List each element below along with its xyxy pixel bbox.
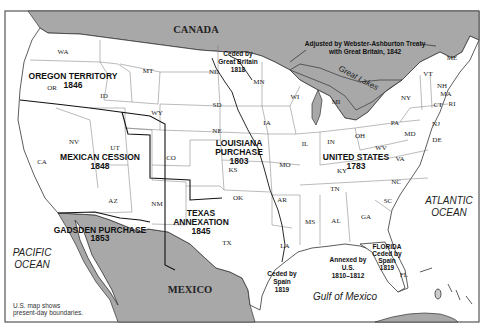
- note-ceded-spain-3: 1819: [275, 286, 290, 293]
- svg-text:MS: MS: [305, 218, 315, 226]
- label-pacific-1: PACIFIC: [13, 247, 52, 258]
- svg-text:FL: FL: [400, 271, 408, 279]
- svg-text:NV: NV: [69, 138, 79, 146]
- label-atlantic-1: ATLANTIC: [424, 195, 473, 206]
- svg-text:KS: KS: [229, 166, 238, 174]
- svg-text:KY: KY: [337, 167, 347, 175]
- svg-text:MN: MN: [253, 78, 264, 86]
- svg-text:MT: MT: [143, 67, 154, 75]
- note-florida-1: FLORIDA: [373, 243, 402, 250]
- svg-text:DE: DE: [432, 136, 441, 144]
- note-annexed-3: 1810–1812: [332, 272, 365, 279]
- svg-text:SC: SC: [384, 197, 393, 205]
- svg-text:IL: IL: [302, 140, 309, 148]
- svg-text:NC: NC: [391, 178, 401, 186]
- svg-text:MI: MI: [332, 98, 341, 106]
- svg-text:TN: TN: [330, 185, 339, 193]
- caption-line-2: present-day boundaries.: [13, 309, 83, 317]
- svg-text:LA: LA: [280, 242, 289, 250]
- label-mexico: MEXICO: [168, 284, 212, 295]
- svg-text:WI: WI: [291, 93, 301, 101]
- label-louisiana-year: 1803: [230, 156, 249, 166]
- svg-text:OH: OH: [355, 132, 365, 140]
- label-gulf-of-mexico: Gulf of Mexico: [313, 291, 377, 302]
- label-united-states-year: 1783: [347, 161, 366, 171]
- svg-text:WA: WA: [58, 48, 69, 56]
- label-mexican-cession-year: 1848: [91, 161, 110, 171]
- svg-text:VT: VT: [423, 70, 433, 78]
- svg-text:MA: MA: [440, 90, 451, 98]
- note-florida-4: 1819: [380, 264, 395, 271]
- svg-text:UT: UT: [110, 144, 120, 152]
- svg-text:OR: OR: [47, 84, 57, 92]
- svg-text:CO: CO: [166, 154, 176, 162]
- svg-text:PA: PA: [391, 119, 399, 127]
- svg-text:IA: IA: [263, 119, 270, 127]
- svg-text:SD: SD: [213, 101, 222, 109]
- svg-text:WY: WY: [151, 109, 163, 117]
- svg-text:AR: AR: [277, 196, 287, 204]
- svg-text:NJ: NJ: [432, 120, 440, 128]
- note-annexed-2: U.S.: [342, 264, 355, 271]
- us-territorial-expansion-map: CANADA MEXICO PACIFIC OCEAN ATLANTIC OCE…: [0, 0, 484, 335]
- label-canada: CANADA: [173, 24, 219, 35]
- svg-text:WV: WV: [375, 144, 387, 152]
- note-ceded-spain-2: Spain: [273, 278, 291, 286]
- svg-text:VA: VA: [395, 155, 404, 163]
- svg-text:NE: NE: [212, 127, 221, 135]
- note-webster-2: with Great Britain, 1842: [328, 48, 402, 56]
- svg-text:NM: NM: [151, 200, 163, 208]
- label-atlantic-2: OCEAN: [431, 207, 467, 218]
- svg-text:MO: MO: [279, 161, 290, 169]
- note-ceded-gb-1: Ceded by: [223, 50, 253, 58]
- note-ceded-gb-3: 1818: [231, 66, 246, 73]
- svg-text:TX: TX: [222, 239, 231, 247]
- svg-text:ME: ME: [447, 54, 458, 62]
- svg-text:ND: ND: [209, 68, 219, 76]
- svg-text:AL: AL: [331, 217, 340, 225]
- svg-text:MD: MD: [404, 130, 415, 138]
- label-oregon-year: 1846: [64, 80, 83, 90]
- label-pacific-2: OCEAN: [14, 259, 50, 270]
- label-gadsden-year: 1853: [91, 233, 110, 243]
- note-ceded-gb-2: Great Britain: [218, 58, 257, 65]
- svg-text:NH: NH: [437, 82, 447, 90]
- svg-text:RI: RI: [449, 100, 457, 108]
- svg-text:GA: GA: [361, 213, 371, 221]
- svg-text:NY: NY: [401, 94, 411, 102]
- svg-text:CT: CT: [434, 101, 444, 109]
- svg-text:ID: ID: [100, 92, 107, 100]
- note-annexed-1: Annexed by: [330, 256, 367, 264]
- label-texas-year: 1845: [192, 226, 211, 236]
- svg-text:IN: IN: [327, 138, 334, 146]
- svg-text:AZ: AZ: [108, 197, 117, 205]
- note-webster-1: Adjusted by Webster-Ashburton Treaty: [305, 40, 426, 48]
- svg-text:OK: OK: [233, 194, 243, 202]
- svg-text:CA: CA: [37, 158, 47, 166]
- note-ceded-spain-1: Ceded by: [267, 270, 297, 278]
